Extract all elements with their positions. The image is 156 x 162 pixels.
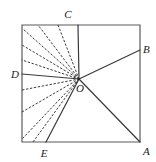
dashed-ray-lower-4: [33, 79, 79, 142]
geometry-figure: A B C D E O: [0, 0, 156, 162]
ray-O-B: [79, 50, 140, 79]
label-o: O: [76, 82, 84, 94]
dashed-rays-upper-group: [22, 25, 79, 79]
label-e: E: [40, 147, 48, 159]
dashed-ray-upper-1: [58, 25, 79, 79]
point-o-marker: [78, 78, 80, 80]
label-d: D: [10, 68, 19, 80]
ray-O-E: [46, 79, 79, 142]
label-a: A: [142, 145, 150, 157]
figure-canvas: A B C D E O: [0, 0, 156, 162]
label-b: B: [143, 43, 150, 55]
ray-O-A: [79, 79, 140, 142]
dashed-ray-upper-4: [22, 45, 79, 79]
dashed-ray-upper-3: [23, 29, 79, 79]
dashed-ray-upper-2: [38, 25, 79, 79]
label-c: C: [64, 8, 72, 20]
ray-O-C: [78, 25, 79, 79]
